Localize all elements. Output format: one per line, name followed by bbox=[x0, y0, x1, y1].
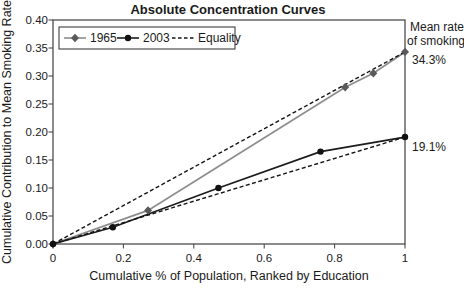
series-2003-point-3 bbox=[317, 148, 323, 154]
axis-ticks: 00.20.40.60.810.000.050.100.150.200.250.… bbox=[26, 14, 409, 264]
series-2003-point-1 bbox=[110, 224, 116, 230]
legend-label-Equality: Equality bbox=[198, 31, 241, 45]
y-tick-label-0.00: 0.00 bbox=[26, 238, 48, 250]
series-Equality-2003-line bbox=[53, 137, 405, 244]
x-tick-label-0: 0 bbox=[50, 252, 56, 264]
chart-title: Absolute Concentration Curves bbox=[130, 2, 325, 17]
series-1965-point-3 bbox=[369, 69, 377, 77]
x-tick-label-1: 1 bbox=[402, 252, 408, 264]
value-label-2003: 19.1% bbox=[412, 140, 446, 154]
series-1965-point-4 bbox=[401, 48, 409, 56]
concentration-curves-figure: Absolute Concentration Curves 00.20.40.6… bbox=[0, 0, 464, 293]
y-tick-label-0.40: 0.40 bbox=[26, 14, 48, 26]
series-lines bbox=[53, 52, 405, 244]
x-axis-label: Cumulative % of Population, Ranked by Ed… bbox=[89, 269, 368, 283]
value-label-1965: 34.3% bbox=[412, 53, 446, 67]
plot-border bbox=[53, 20, 405, 244]
legend-label-1965: 1965 bbox=[90, 31, 117, 45]
x-tick-label-0.2: 0.2 bbox=[115, 252, 131, 264]
y-tick-label-0.25: 0.25 bbox=[26, 98, 48, 110]
mean-rate-annotation-line1: Mean rate bbox=[410, 20, 464, 34]
x-tick-label-0.6: 0.6 bbox=[256, 252, 272, 264]
legend-circle-marker bbox=[125, 35, 131, 41]
legend-entries: 19652003Equality bbox=[64, 31, 241, 45]
series-1965-point-2 bbox=[341, 83, 349, 91]
y-axis-label: Cumulative Contribution to Mean Smoking … bbox=[0, 0, 14, 264]
series-2003-point-0 bbox=[50, 241, 56, 247]
concentration-curves-chart: Absolute Concentration Curves 00.20.40.6… bbox=[0, 0, 464, 293]
series-2003-point-2 bbox=[215, 185, 221, 191]
series-2003-point-4 bbox=[402, 134, 408, 140]
y-tick-label-0.30: 0.30 bbox=[26, 70, 48, 82]
y-tick-label-0.15: 0.15 bbox=[26, 154, 48, 166]
legend-label-2003: 2003 bbox=[143, 31, 170, 45]
mean-rate-annotation-line2: of smoking bbox=[407, 34, 464, 48]
y-tick-label-0.20: 0.20 bbox=[26, 126, 48, 138]
y-tick-label-0.35: 0.35 bbox=[26, 42, 48, 54]
y-tick-label-0.10: 0.10 bbox=[26, 182, 48, 194]
x-tick-label-0.4: 0.4 bbox=[186, 252, 203, 264]
legend: 19652003Equality bbox=[59, 27, 241, 49]
series-markers bbox=[49, 48, 409, 248]
y-tick-label-0.05: 0.05 bbox=[26, 210, 48, 222]
x-tick-label-0.8: 0.8 bbox=[327, 252, 343, 264]
series-Equality-1965-line bbox=[53, 52, 405, 244]
